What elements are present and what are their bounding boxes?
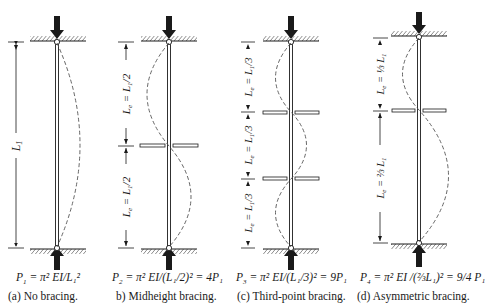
formula-a: P1 = π² EI/L₁²: [16, 271, 80, 283]
hatched-ground-icon: [391, 31, 447, 249]
panel-a-no-bracing: L1: [8, 16, 86, 270]
formula-d: P4 = π² EI /(⅔L₁)² = 9/4 P₁: [360, 271, 485, 283]
hatched-ground-icon: [30, 36, 86, 254]
pin-support-icon: [288, 39, 293, 44]
panel-d-asymmetric-bracing: Le = ⅓ L1 Le = ⅔ L1: [373, 12, 449, 267]
load-arrow-down-icon: [50, 16, 64, 39]
panel-b-midheight-bracing: Le = L1/2 Le = L1/2: [118, 16, 198, 270]
pin-support-icon: [166, 245, 171, 250]
lateral-brace-icon: [263, 111, 319, 114]
formula-c: P3 = π² EI/(L₁/3)² = 9P₁: [236, 271, 347, 283]
caption-b: b) Midheight bracing.: [116, 290, 217, 302]
load-arrow-down-icon: [412, 12, 426, 34]
dimension-label: Le = L1/2: [120, 73, 134, 115]
pin-support-icon: [288, 245, 293, 250]
load-arrow-down-icon: [162, 16, 176, 39]
dimension-label: L1: [9, 141, 24, 153]
dimension-line-c: Le = L1/3 Le = L1/3 Le = L1/3: [241, 42, 256, 248]
dimension-label: Le = L1/2: [120, 176, 134, 218]
buckled-shape-dashed-icon: [276, 43, 307, 247]
pin-support-icon: [416, 34, 421, 39]
buckled-shape-dashed-icon: [57, 43, 80, 247]
hatched-ground-icon: [263, 36, 319, 254]
caption-a: (a) No bracing.: [8, 290, 78, 302]
dimension-label: Le = L1/3: [243, 58, 256, 98]
dimension-label: Le = ⅓ L1: [375, 53, 388, 95]
dimension-label: Le = L1/3: [243, 194, 256, 234]
load-arrow-down-icon: [284, 16, 298, 39]
dimension-line-d: Le = ⅓ L1 Le = ⅔ L1: [373, 38, 388, 243]
pin-support-icon: [166, 39, 171, 44]
caption-d: (d) Asymmetric bracing.: [357, 290, 470, 302]
caption-c: (c) Third-point bracing.: [237, 290, 346, 302]
dimension-line-b: Le = L1/2 Le = L1/2: [118, 42, 134, 248]
dimension-label: Le = L1/3: [243, 126, 256, 166]
formula-b: P2 = π² EI/(L₁/2)² = 4P₁: [112, 271, 223, 283]
column-a: [56, 44, 59, 246]
buckled-shape-dashed-icon: [403, 38, 449, 242]
dimension-label: Le = ⅔ L1: [375, 157, 388, 199]
dimension-line-l1: L1: [8, 42, 24, 248]
pin-support-icon: [416, 240, 421, 245]
column-d: [418, 39, 421, 241]
panel-c-third-point-bracing: Le = L1/3 Le = L1/3 Le = L1/3: [241, 16, 319, 270]
column-c: [290, 44, 293, 246]
